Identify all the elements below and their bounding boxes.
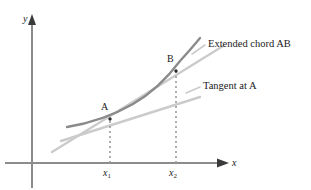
point-b-label: B — [167, 54, 174, 64]
function-curve — [67, 38, 200, 127]
y-axis-label: y — [23, 14, 27, 24]
x-axis-label: x — [232, 158, 236, 168]
y-axis-arrowhead — [28, 14, 36, 25]
extended-chord-annotation: Extended chord AB — [208, 39, 291, 50]
tangent-label-leader — [186, 87, 200, 93]
x1-tick-label: x1 — [103, 168, 111, 178]
figure-canvas: y x x1 x2 A B Extended chord AB Tangent … — [0, 0, 311, 190]
point-marker-a — [108, 117, 111, 120]
x2-tick-subscript: 2 — [173, 172, 177, 180]
tangent-annotation: Tangent at A — [203, 81, 257, 92]
x1-tick-subscript: 1 — [107, 172, 111, 180]
x-axis-arrowhead — [217, 159, 229, 168]
figure-graphics — [0, 0, 311, 190]
x2-tick-label: x2 — [169, 168, 177, 178]
point-marker-b — [174, 69, 177, 72]
point-a-label: A — [101, 102, 108, 112]
